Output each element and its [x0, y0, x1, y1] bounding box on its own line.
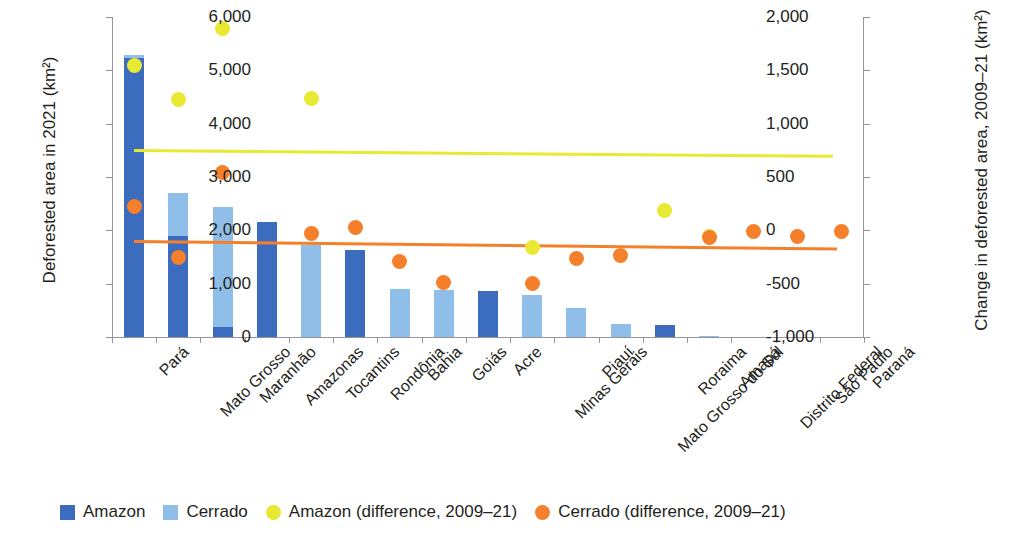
- x-tick: [687, 337, 688, 343]
- scatter-dot-cerrado[interactable]: [436, 275, 451, 290]
- y-tick-left: [106, 177, 112, 178]
- scatter-dot-cerrado[interactable]: [525, 276, 540, 291]
- y-tick-label-left: 1,000: [208, 275, 251, 292]
- y-tick-label-left: 3,000: [208, 168, 251, 185]
- scatter-dot-cerrado[interactable]: [746, 224, 761, 239]
- legend-item[interactable]: Amazon (difference, 2009–21): [266, 503, 517, 521]
- x-tick: [466, 337, 467, 343]
- bar-segment-cerrado[interactable]: [522, 295, 542, 337]
- bar-group[interactable]: [611, 324, 631, 337]
- bar-segment-cerrado[interactable]: [611, 324, 631, 337]
- bar-group[interactable]: [168, 193, 188, 337]
- x-tick: [599, 337, 600, 343]
- bar-segment-cerrado[interactable]: [434, 290, 454, 337]
- bar-group[interactable]: [345, 250, 365, 337]
- bar-segment-amazon[interactable]: [655, 325, 675, 337]
- y-tick-label-left: 4,000: [208, 115, 251, 132]
- y-tick-right: [864, 284, 870, 285]
- bar-group[interactable]: [699, 336, 719, 337]
- legend-label: Amazon (difference, 2009–21): [289, 503, 517, 521]
- bar-group[interactable]: [522, 295, 542, 337]
- x-tick: [643, 337, 644, 343]
- scatter-dot-amazon[interactable]: [171, 92, 186, 107]
- legend-square-icon: [60, 505, 75, 520]
- scatter-dot-cerrado[interactable]: [348, 220, 363, 235]
- legend-label: Cerrado (difference, 2009–21): [558, 503, 785, 521]
- bar-group[interactable]: [434, 290, 454, 337]
- x-tick: [731, 337, 732, 343]
- bar-segment-amazon[interactable]: [213, 327, 233, 337]
- legend-item[interactable]: Amazon: [60, 503, 145, 521]
- bar-segment-amazon[interactable]: [345, 250, 365, 337]
- y-tick-right: [864, 230, 870, 231]
- bar-group[interactable]: [257, 222, 277, 337]
- legend-circle-icon: [266, 505, 281, 520]
- bar-segment-amazon[interactable]: [478, 291, 498, 337]
- scatter-dot-cerrado[interactable]: [127, 199, 142, 214]
- x-tick: [289, 337, 290, 343]
- bar-group[interactable]: [566, 308, 586, 337]
- bar-segment-cerrado[interactable]: [168, 193, 188, 236]
- bar-segment-cerrado[interactable]: [699, 336, 719, 337]
- bar-segment-amazon[interactable]: [124, 58, 144, 337]
- trend-line: [134, 240, 837, 250]
- y-tick-left: [106, 70, 112, 71]
- y-tick-label-left: 5,000: [208, 61, 251, 78]
- scatter-dot-cerrado[interactable]: [392, 254, 407, 269]
- chart-legend: AmazonCerradoAmazon (difference, 2009–21…: [60, 503, 786, 521]
- scatter-dot-amazon[interactable]: [127, 58, 142, 73]
- y-tick-label-right: 0: [766, 221, 775, 238]
- scatter-dot-cerrado[interactable]: [569, 251, 584, 266]
- scatter-dot-amazon[interactable]: [525, 240, 540, 255]
- y-tick-label-right: 1,500: [766, 61, 809, 78]
- y-tick-label-left: 6,000: [208, 8, 251, 25]
- bar-group[interactable]: [390, 289, 410, 337]
- y-tick-left: [106, 124, 112, 125]
- y-tick-label-right: 2,000: [766, 8, 809, 25]
- legend-circle-icon: [535, 505, 550, 520]
- x-category-label: Acre: [510, 343, 545, 378]
- y-tick-label-left: 0: [242, 328, 251, 345]
- y-tick-label-right: 500: [766, 168, 794, 185]
- x-tick: [422, 337, 423, 343]
- bar-segment-cerrado[interactable]: [566, 308, 586, 337]
- bar-group[interactable]: [655, 325, 675, 337]
- x-tick: [200, 337, 201, 343]
- scatter-dot-amazon[interactable]: [304, 91, 319, 106]
- x-axis-line: [112, 337, 864, 338]
- y-tick-left: [106, 17, 112, 18]
- bar-segment-cerrado[interactable]: [390, 289, 410, 337]
- x-tick: [377, 337, 378, 343]
- bar-segment-cerrado[interactable]: [301, 245, 321, 337]
- scatter-dot-cerrado[interactable]: [790, 229, 805, 244]
- legend-label: Amazon: [83, 503, 145, 521]
- scatter-dot-cerrado[interactable]: [613, 248, 628, 263]
- bar-group[interactable]: [478, 291, 498, 337]
- scatter-dot-cerrado[interactable]: [304, 226, 319, 241]
- deforestation-chart: Deforested area in 2021 (km²) Change in …: [0, 0, 1013, 534]
- legend-square-icon: [163, 505, 178, 520]
- y-tick-label-right: 1,000: [766, 115, 809, 132]
- scatter-dot-amazon[interactable]: [657, 203, 672, 218]
- x-category-label: Goiás: [468, 343, 510, 385]
- x-tick: [864, 337, 865, 343]
- y-tick-left: [106, 230, 112, 231]
- trend-line: [134, 149, 833, 157]
- bar-segment-amazon[interactable]: [257, 222, 277, 337]
- bar-group[interactable]: [301, 245, 321, 337]
- y-tick-right: [864, 70, 870, 71]
- scatter-dot-cerrado[interactable]: [171, 250, 186, 265]
- scatter-dot-cerrado[interactable]: [834, 224, 849, 239]
- x-tick: [554, 337, 555, 343]
- legend-item[interactable]: Cerrado: [163, 503, 247, 521]
- x-tick: [510, 337, 511, 343]
- x-tick: [333, 337, 334, 343]
- legend-item[interactable]: Cerrado (difference, 2009–21): [535, 503, 785, 521]
- y-tick-right: [864, 17, 870, 18]
- y-tick-label-right: -500: [766, 275, 800, 292]
- y-tick-left: [106, 284, 112, 285]
- bar-group[interactable]: [124, 55, 144, 337]
- y-tick-right: [864, 177, 870, 178]
- y-axis-title-left: Deforested area in 2021 (km²): [40, 0, 60, 340]
- scatter-dot-cerrado[interactable]: [702, 230, 717, 245]
